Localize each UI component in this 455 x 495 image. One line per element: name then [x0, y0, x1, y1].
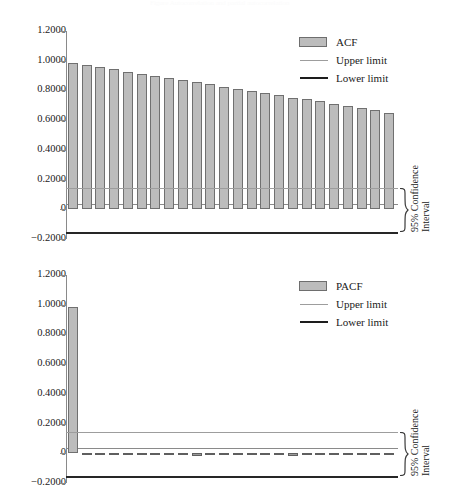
bar	[370, 453, 380, 455]
bar	[302, 453, 312, 455]
bar	[315, 101, 325, 209]
bar	[192, 82, 202, 209]
legend-line-wrap	[299, 54, 329, 66]
legend-label: Upper limit	[336, 298, 387, 310]
y-tick: 0.8000	[0, 90, 66, 91]
bar	[302, 99, 312, 209]
bar	[205, 453, 215, 455]
bar	[274, 95, 284, 209]
acf-upper-limit-line	[66, 188, 398, 189]
y-tick-label: 0.6000	[10, 358, 66, 368]
y-tick: 0.6000	[0, 364, 66, 365]
bar	[68, 63, 78, 209]
y-tick: 1.0000	[0, 305, 66, 306]
bar	[137, 453, 147, 455]
bar	[329, 453, 339, 455]
y-tick: 0.4000	[0, 394, 66, 395]
y-tick: 0.6000	[0, 120, 66, 121]
acf-chart-panel: 1.20001.00000.80000.60000.40000.20000−0.…	[0, 14, 455, 249]
legend-label: Upper limit	[336, 54, 387, 66]
acf-confidence-interval-annotation: 95% Confidence Interval	[397, 188, 455, 232]
y-tick-label: 0.8000	[10, 328, 66, 338]
y-tick-label: 1.0000	[10, 299, 66, 309]
legend-item[interactable]: Upper limit	[299, 296, 419, 312]
bar	[343, 453, 353, 455]
legend-item[interactable]: Upper limit	[299, 52, 419, 68]
legend-line-wrap	[299, 72, 329, 84]
acf-ci-label-line1: 95% Confidence	[409, 158, 420, 232]
acf-ci-label: 95% Confidence Interval	[409, 158, 431, 232]
bar	[178, 80, 188, 209]
legend-thin-line-icon	[300, 60, 328, 61]
y-tick-label: −0.2000	[10, 233, 66, 243]
y-tick: 1.0000	[0, 61, 66, 62]
y-tick-mark	[60, 483, 66, 484]
y-tick-label: 0	[10, 203, 66, 213]
y-tick-label: 0.4000	[10, 144, 66, 154]
legend-line-wrap	[299, 298, 329, 310]
bar	[329, 104, 339, 209]
legend-swatch-icon	[299, 281, 327, 291]
y-tick-label: 1.2000	[10, 25, 66, 35]
y-tick: 0	[0, 453, 66, 454]
bar	[164, 78, 174, 209]
bar	[219, 453, 229, 455]
legend-item[interactable]: PACF	[299, 278, 419, 294]
legend-item[interactable]: ACF	[299, 34, 419, 50]
y-tick-label: 1.0000	[10, 55, 66, 65]
bar	[384, 113, 394, 210]
y-tick: 0.8000	[0, 334, 66, 335]
y-tick: 1.2000	[0, 275, 66, 276]
y-tick-mark	[60, 239, 66, 240]
y-tick-label: 1.2000	[10, 269, 66, 279]
pacf-legend: PACFUpper limitLower limit	[299, 278, 419, 332]
legend-swatch-wrap	[299, 36, 329, 48]
bar	[164, 453, 174, 455]
bar	[247, 453, 257, 455]
bar	[288, 453, 298, 455]
pacf-ci-label: 95% Confidence Interval	[409, 402, 431, 476]
y-tick: 0.2000	[0, 180, 66, 181]
pacf-ci-label-line1: 95% Confidence	[409, 402, 420, 476]
legend-item[interactable]: Lower limit	[299, 70, 419, 86]
bar	[123, 453, 133, 455]
bar	[260, 453, 270, 455]
bar	[357, 453, 367, 455]
curly-brace-icon	[399, 188, 409, 232]
legend-label: ACF	[336, 36, 357, 48]
bar	[219, 87, 229, 210]
bar	[274, 453, 284, 455]
bar	[357, 108, 367, 209]
y-tick-label: −0.2000	[10, 477, 66, 487]
legend-swatch-wrap	[299, 280, 329, 292]
acf-lower-limit-line	[66, 232, 398, 234]
y-tick: −0.2000	[0, 239, 66, 240]
y-tick-label: 0.2000	[10, 174, 66, 184]
y-tick: 1.2000	[0, 31, 66, 32]
bar	[82, 453, 92, 455]
y-tick: 0.4000	[0, 150, 66, 151]
legend-label: PACF	[336, 280, 363, 292]
bar	[68, 307, 78, 453]
page-header-artifact: Figure Autocorrelation and partial autoc…	[150, 0, 410, 6]
y-tick-label: 0.4000	[10, 388, 66, 398]
legend-thick-line-icon	[300, 321, 328, 323]
bar	[315, 453, 325, 455]
legend-swatch-icon	[299, 37, 327, 47]
bar	[247, 91, 257, 209]
bar	[150, 453, 160, 455]
legend-thin-line-icon	[300, 304, 328, 305]
pacf-lower-limit-line	[66, 476, 398, 478]
y-tick-label: 0.8000	[10, 84, 66, 94]
bar	[370, 110, 380, 209]
bar	[384, 453, 394, 455]
pacf-ci-label-line2: Interval	[420, 402, 431, 476]
bar	[109, 453, 119, 455]
legend-label: Lower limit	[336, 72, 388, 84]
acf-legend: ACFUpper limitLower limit	[299, 34, 419, 88]
bar	[205, 84, 215, 209]
pacf-upper-limit-line	[66, 432, 398, 433]
legend-item[interactable]: Lower limit	[299, 314, 419, 330]
bar	[95, 453, 105, 455]
bar	[343, 106, 353, 209]
